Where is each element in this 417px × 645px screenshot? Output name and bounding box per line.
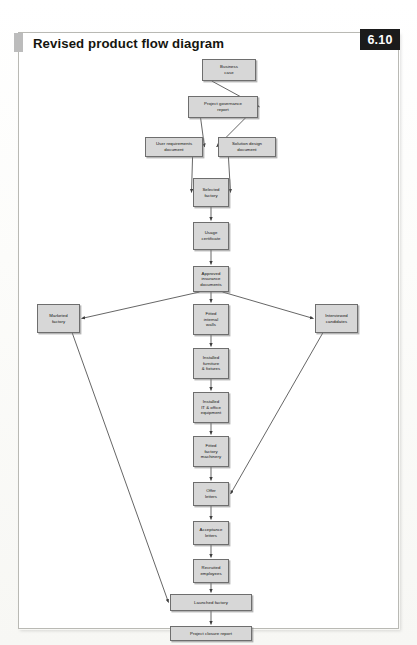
connector-approved_insurance-to-interviewed_candidates bbox=[223, 292, 314, 319]
flow-node-approved_insurance[interactable]: Approved insurance documents bbox=[193, 266, 229, 292]
flow-node-label: Interviewed candidates bbox=[325, 313, 348, 324]
flow-node-label: Installed furniture & fixtures bbox=[202, 355, 220, 372]
flow-node-label: Acceptance letters bbox=[200, 527, 223, 538]
flow-node-label: Offer letters bbox=[205, 488, 217, 499]
flow-node-selected_factory[interactable]: Selected factory bbox=[193, 178, 229, 207]
flow-node-fitted_internal_walls[interactable]: Fitted internal walls bbox=[193, 304, 229, 335]
flow-node-label: Launched factory bbox=[194, 600, 228, 606]
flow-node-launched_factory[interactable]: Launched factory bbox=[170, 594, 252, 611]
flow-node-label: Business case bbox=[220, 64, 238, 75]
flow-node-interviewed_candidates[interactable]: Interviewed candidates bbox=[315, 304, 358, 333]
flow-node-label: Fitted factory machinery bbox=[201, 443, 221, 460]
flow-node-label: Marketed factory bbox=[49, 313, 67, 324]
flowchart-canvas: Business caseProject governance reportUs… bbox=[18, 32, 399, 629]
flow-node-business_case[interactable]: Business case bbox=[202, 59, 256, 81]
flow-node-label: Installed IT & office equipment bbox=[201, 399, 222, 416]
flow-node-label: Recruited employees bbox=[200, 565, 221, 576]
connector-marketed_factory-to-launched_factory bbox=[72, 333, 168, 603]
flow-node-label: Fitted internal walls bbox=[204, 311, 219, 328]
flow-node-recruited_employees[interactable]: Recruited employees bbox=[193, 559, 229, 583]
flow-node-usage_certificate[interactable]: Usage certificate bbox=[193, 222, 229, 250]
flow-node-project_governance[interactable]: Project governance report bbox=[188, 96, 258, 118]
flow-node-label: Solution design document bbox=[232, 141, 262, 152]
connector-interviewed_candidates-to-offer_letters bbox=[231, 333, 323, 494]
flow-node-acceptance_letters[interactable]: Acceptance letters bbox=[193, 521, 229, 545]
connector-approved_insurance-to-marketed_factory bbox=[82, 292, 200, 319]
page-background: Revised product flow diagram 6.10 Busine… bbox=[0, 0, 417, 645]
flow-node-marketed_factory[interactable]: Marketed factory bbox=[37, 304, 80, 333]
flow-node-label: Approved insurance documents bbox=[200, 271, 221, 288]
flow-node-installed_it[interactable]: Installed IT & office equipment bbox=[193, 392, 229, 423]
flow-node-label: Usage certificate bbox=[202, 230, 221, 241]
flow-node-solution_design[interactable]: Solution design document bbox=[218, 137, 276, 157]
flow-node-project_closure[interactable]: Project closure report bbox=[170, 626, 252, 641]
flow-node-label: Project governance report bbox=[204, 101, 242, 112]
flow-node-label: Selected factory bbox=[202, 187, 219, 198]
flow-node-installed_furniture[interactable]: Installed furniture & fixtures bbox=[193, 348, 229, 379]
flow-node-label: User requirements document bbox=[156, 141, 192, 152]
flow-node-fitted_machinery[interactable]: Fitted factory machinery bbox=[193, 436, 229, 467]
flow-node-label: Project closure report bbox=[190, 631, 232, 637]
flow-node-offer_letters[interactable]: Offer letters bbox=[193, 482, 229, 506]
flow-node-user_requirements[interactable]: User requirements document bbox=[145, 137, 203, 157]
